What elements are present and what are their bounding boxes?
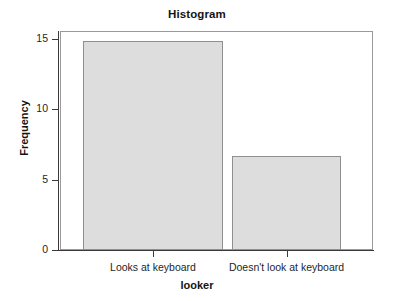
y-tick-10 — [52, 109, 58, 110]
y-tick-5 — [52, 180, 58, 181]
y-tick-label-10: 10 — [36, 103, 48, 114]
y-tick-label-15: 15 — [36, 33, 48, 44]
x-tick-label-0: Looks at keyboard — [110, 261, 196, 273]
bar-looks-at-keyboard — [83, 41, 223, 250]
y-tick-label-0: 0 — [42, 244, 48, 255]
x-tick-1 — [287, 251, 288, 257]
y-tick-15 — [52, 39, 58, 40]
y-axis-line — [58, 31, 59, 251]
x-tick-0 — [153, 251, 154, 257]
histogram-chart: Histogram 051015 Looks at keyboardDoesn'… — [0, 0, 394, 301]
y-tick-label-5: 5 — [42, 174, 48, 185]
chart-title: Histogram — [0, 8, 394, 20]
plot-area — [61, 32, 372, 250]
y-axis-title: Frequency — [18, 83, 30, 173]
x-tick-label-1: Doesn't look at keyboard — [229, 261, 344, 273]
x-axis-title: looker — [0, 279, 394, 291]
x-axis-line — [58, 250, 374, 251]
y-tick-0 — [52, 250, 58, 251]
bar-doesnt-look-at-keyboard — [232, 156, 341, 250]
